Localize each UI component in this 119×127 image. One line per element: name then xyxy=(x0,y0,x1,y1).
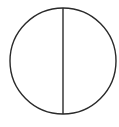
diagram-canvas xyxy=(0,0,119,127)
